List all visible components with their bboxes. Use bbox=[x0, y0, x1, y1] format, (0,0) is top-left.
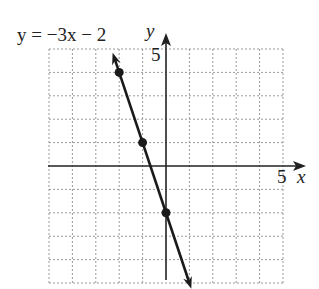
x-axis bbox=[48, 161, 306, 171]
x-tick-5: 5 bbox=[277, 166, 287, 188]
y-axis-label: y bbox=[146, 20, 154, 42]
y-axis bbox=[161, 33, 171, 280]
line-y-equals-neg3x-minus2 bbox=[112, 53, 192, 289]
data-point bbox=[138, 138, 147, 147]
x-axis-label: x bbox=[297, 166, 305, 188]
data-point bbox=[115, 68, 124, 77]
equation-label: y = −3x − 2 bbox=[17, 24, 106, 46]
y-tick-5: 5 bbox=[151, 44, 161, 66]
data-point bbox=[162, 208, 171, 217]
